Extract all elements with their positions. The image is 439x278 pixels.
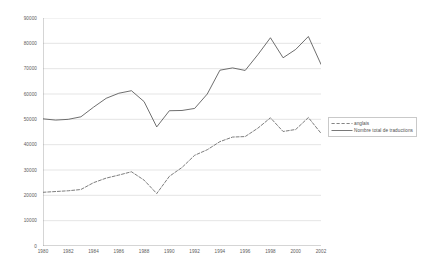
x-tick-label: 2002 <box>308 249 334 255</box>
x-tick-label: 1980 <box>30 249 56 255</box>
y-axis-tick-labels: 0100002000030000400005000060000700008000… <box>0 18 41 246</box>
y-tick-label: 30000 <box>0 168 41 173</box>
x-tick-label: 1994 <box>207 249 233 255</box>
x-tick-label: 1992 <box>182 249 208 255</box>
plot-svg <box>43 18 321 246</box>
y-tick-label: 20000 <box>0 193 41 198</box>
solid-line-icon <box>331 127 353 134</box>
x-axis-tick-labels: 1980198219841986198819901992199419961998… <box>43 249 321 261</box>
y-tick-label: 50000 <box>0 117 41 122</box>
x-tick-label: 1990 <box>156 249 182 255</box>
legend-item-total: Nombre total de traductions <box>331 127 413 134</box>
x-tick-label: 1982 <box>55 249 81 255</box>
series-line-total <box>43 36 321 126</box>
series-line-anglais <box>43 118 321 194</box>
legend-label-anglais: anglais <box>353 120 369 127</box>
gridlines <box>43 18 321 221</box>
x-tick-label: 1998 <box>257 249 283 255</box>
y-tick-label: 90000 <box>0 16 41 21</box>
dashed-line-icon <box>331 120 353 127</box>
legend-label-total: Nombre total de traductions <box>353 127 413 134</box>
x-tick-label: 1984 <box>81 249 107 255</box>
x-tick-label: 1988 <box>131 249 157 255</box>
legend-item-anglais: anglais <box>331 120 413 127</box>
y-tick-label: 70000 <box>0 66 41 71</box>
y-tick-label: 40000 <box>0 142 41 147</box>
plot-area <box>43 18 321 246</box>
chart-container: 0100002000030000400005000060000700008000… <box>0 0 439 278</box>
y-tick-label: 60000 <box>0 92 41 97</box>
x-tick-label: 2000 <box>283 249 309 255</box>
x-tick-label: 1986 <box>106 249 132 255</box>
x-tick-label: 1996 <box>232 249 258 255</box>
y-tick-label: 0 <box>0 244 41 249</box>
y-tick-label: 10000 <box>0 218 41 223</box>
chart-legend: anglais Nombre total de traductions <box>328 117 417 137</box>
y-tick-label: 80000 <box>0 41 41 46</box>
